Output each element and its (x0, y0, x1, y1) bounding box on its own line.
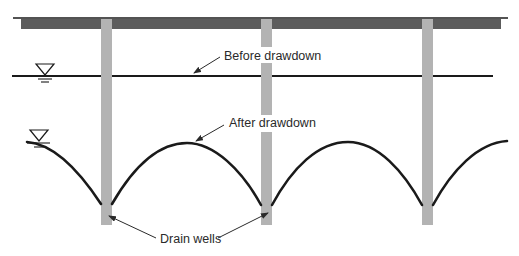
before-water-table-symbol (36, 64, 54, 82)
before-arrow-icon (194, 57, 220, 73)
diagram-canvas: Before drawdown After drawdown Drain wel… (0, 0, 519, 256)
after-drawdown-text: After drawdown (229, 116, 316, 130)
after-arrow-icon (196, 125, 224, 141)
drain-well-2-upper (261, 19, 272, 47)
water-table-triangle-icon (36, 64, 54, 75)
label-after-drawdown: After drawdown (196, 116, 316, 141)
drain-well-2-middle (261, 63, 272, 115)
drain-wells-text: Drain wells (160, 232, 221, 246)
water-table-triangle-icon (30, 130, 48, 141)
label-drain-wells: Drain wells (109, 213, 268, 246)
wells-arrow-right-icon (218, 213, 268, 238)
drain-well-1 (101, 19, 112, 225)
before-drawdown-text: Before drawdown (224, 49, 321, 63)
ground-surface (13, 18, 508, 29)
label-before-drawdown: Before drawdown (194, 49, 321, 73)
drain-well-2-lower (261, 132, 272, 225)
wells-arrow-left-icon (109, 216, 156, 238)
drain-well-3 (422, 19, 433, 225)
